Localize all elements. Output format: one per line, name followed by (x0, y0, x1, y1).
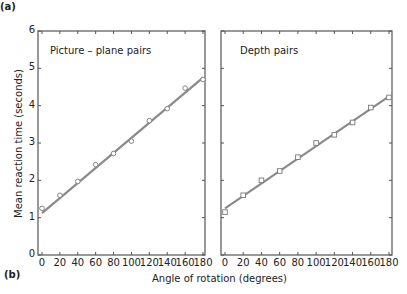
data-point-square (259, 178, 264, 183)
x-tick-label: 160 (176, 257, 195, 268)
fit-line (42, 78, 203, 214)
data-point-circle (165, 106, 170, 111)
y-tick-label: 0 (29, 248, 35, 259)
plot-title-depth: Depth pairs (240, 45, 298, 56)
x-tick-label: 40 (71, 257, 84, 268)
data-point-square (314, 141, 319, 146)
data-point-circle (183, 86, 188, 91)
x-tick-label: 180 (193, 257, 212, 268)
x-tick-label: 60 (273, 257, 286, 268)
plot-title-picture-plane: Picture – plane pairs (50, 45, 151, 56)
y-tick-label: 1 (29, 211, 35, 222)
data-point-circle (75, 179, 80, 184)
data-point-circle (111, 151, 116, 156)
data-point-square (387, 95, 392, 100)
data-point-square (277, 169, 282, 174)
data-point-circle (147, 118, 152, 123)
fit-line (225, 96, 389, 208)
x-tick-label: 100 (307, 257, 326, 268)
y-tick-label: 6 (29, 24, 35, 35)
x-tick-label: 140 (158, 257, 177, 268)
data-point-circle (201, 77, 206, 82)
data-point-circle (58, 193, 63, 198)
x-tick-label: 160 (361, 257, 380, 268)
x-tick-label: 0 (222, 257, 228, 268)
x-tick-label: 0 (39, 257, 45, 268)
x-tick-label: 120 (140, 257, 159, 268)
x-tick-label: 60 (89, 257, 102, 268)
y-tick-label: 2 (29, 173, 35, 184)
y-tick-label: 4 (29, 99, 35, 110)
x-tick-label: 20 (237, 257, 250, 268)
x-tick-label: 40 (255, 257, 268, 268)
x-tick-label: 100 (122, 257, 141, 268)
x-tick-label: 140 (343, 257, 362, 268)
plot-frame (221, 31, 392, 255)
data-point-circle (93, 162, 98, 167)
data-point-square (368, 105, 373, 110)
x-tick-label: 120 (325, 257, 344, 268)
x-tick-label: 80 (292, 257, 305, 268)
data-point-circle (129, 139, 134, 144)
x-tick-label: 20 (54, 257, 67, 268)
x-tick-label: 80 (107, 257, 120, 268)
x-tick-label: 180 (379, 257, 398, 268)
data-point-square (350, 120, 355, 125)
data-point-square (241, 193, 246, 198)
y-tick-label: 5 (29, 61, 35, 72)
plot-frame (38, 31, 205, 255)
data-point-square (296, 155, 301, 160)
y-tick-label: 3 (29, 136, 35, 147)
data-point-circle (40, 206, 45, 211)
data-point-square (332, 132, 337, 137)
data-point-square (223, 210, 228, 215)
